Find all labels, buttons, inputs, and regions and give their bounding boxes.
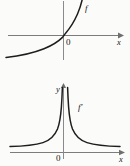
graph-svg-f	[0, 0, 130, 83]
curve-fprime-right	[68, 88, 120, 147]
curve-f	[6, 0, 82, 58]
function-label-fprime: f′	[78, 103, 82, 112]
origin-label-f: 0	[66, 38, 71, 47]
y-axis-arrow-fprime	[61, 83, 66, 88]
graph-panel-fprime: f′ y 0 x	[0, 83, 130, 166]
math-figure: f 0 x f′ y 0 x	[0, 0, 130, 166]
x-axis-label-f: x	[117, 38, 121, 47]
y-axis-label-fprime: y	[56, 85, 60, 94]
x-axis-label-fprime: x	[119, 155, 123, 164]
function-label-f: f	[85, 4, 88, 13]
graph-panel-f: f 0 x	[0, 0, 130, 83]
origin-label-fprime: 0	[56, 154, 61, 163]
curve-fprime-left	[10, 88, 62, 147]
graph-svg-fprime	[0, 83, 130, 166]
